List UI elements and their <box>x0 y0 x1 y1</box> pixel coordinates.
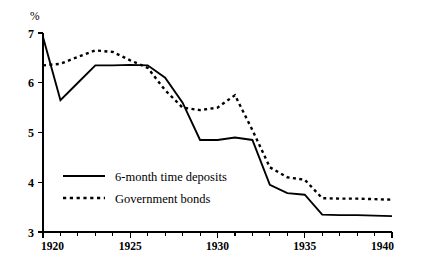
y-tick-label: 4 <box>28 176 34 190</box>
x-tick-label: 1920 <box>41 240 64 252</box>
y-tick-label: 5 <box>28 126 34 140</box>
y-tick-label: 3 <box>28 226 34 240</box>
y-tick-label: 6 <box>28 76 34 90</box>
chart-container: %34567192019251930193519406-month time d… <box>0 0 432 267</box>
line-chart: %34567192019251930193519406-month time d… <box>0 0 432 267</box>
series-line-solid <box>43 37 392 216</box>
y-tick-label: 7 <box>28 27 34 41</box>
x-tick-label: 1940 <box>371 240 394 252</box>
legend-label: Government bonds <box>115 192 211 206</box>
legend-label: 6-month time deposits <box>115 170 227 184</box>
x-tick-label: 1935 <box>293 240 316 252</box>
y-axis-unit-label: % <box>30 10 40 22</box>
x-tick-label: 1930 <box>206 240 229 252</box>
x-tick-label: 1925 <box>119 240 142 252</box>
